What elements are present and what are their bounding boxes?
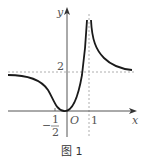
- tick-label-one: 1: [91, 114, 98, 127]
- tick-label-neg-half-den: 2: [52, 126, 59, 139]
- figure-caption: 图 1: [61, 145, 83, 158]
- curve-left-branch: [8, 20, 87, 111]
- tick-label-neg-half-num: 1: [52, 113, 59, 126]
- origin-label: O: [70, 114, 79, 127]
- x-axis-label: x: [132, 114, 139, 127]
- function-graph: y x O 2 1 − 1 2 图 1: [0, 0, 142, 160]
- tick-label-neg-half-sign: −: [42, 119, 51, 132]
- tick-label-two: 2: [57, 60, 64, 73]
- y-axis-label: y: [56, 6, 64, 19]
- curve-right-branch: [91, 20, 132, 70]
